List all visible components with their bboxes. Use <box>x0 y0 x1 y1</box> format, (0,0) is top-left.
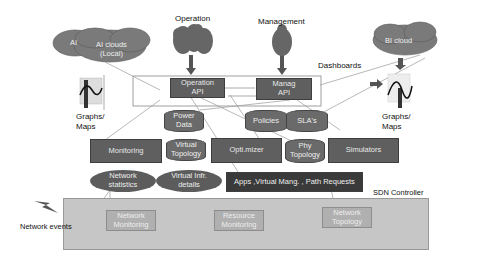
operation-crowd-icon <box>173 24 213 54</box>
power-data-db[interactable]: Power Data <box>164 110 204 132</box>
simulators-module[interactable]: Simulators <box>328 138 399 163</box>
requests-bar[interactable]: Apps ,Virtual Mang. , Path Requests <box>226 172 363 192</box>
graph-icon-right <box>388 74 412 108</box>
resource-monitoring-box[interactable]: Resource Monitoring <box>214 210 264 231</box>
graphs-right-line2: Maps <box>382 122 410 132</box>
phy-topology-line2: Topology <box>290 151 320 160</box>
management-crowd-icon <box>272 24 292 56</box>
dashboards-label: Dashboards <box>318 61 361 70</box>
management-label: Management <box>258 17 305 26</box>
graphs-left-line2: Maps <box>76 122 104 132</box>
ai-local-cloud-label: AI clouds (Local) <box>96 40 127 58</box>
operation-api-box[interactable]: Operation API <box>170 78 225 98</box>
power-line2: Data <box>176 121 192 130</box>
virtual-topology-db[interactable]: Virtual Topology <box>166 139 206 161</box>
graphs-left-line1: Graphs/ <box>76 112 104 122</box>
network-events-label: Network events <box>20 222 72 231</box>
policies-db[interactable]: Policies <box>245 110 287 132</box>
network-topology-line2: Topology <box>332 218 362 227</box>
operation-label: Operation <box>175 14 210 23</box>
virtual-infr-details-ellipse[interactable]: Virtual Infr. details <box>156 170 222 192</box>
slas-db[interactable]: SLA's <box>286 110 328 132</box>
ai-local-line2: (Local) <box>96 49 127 58</box>
graph-icon-left <box>80 78 102 108</box>
network-topology-box[interactable]: Network Topology <box>322 207 372 228</box>
network-monitoring-line2: Monitoring <box>113 221 148 230</box>
phy-topology-db[interactable]: Phy Topology <box>285 139 325 163</box>
operation-api-line2: API <box>191 88 203 97</box>
network-statistics-ellipse[interactable]: Network statistics <box>90 170 156 192</box>
management-api-line2: API <box>278 89 290 98</box>
network-statistics-line2: statistics <box>109 181 138 190</box>
virtual-topology-line2: Topology <box>171 150 201 159</box>
graphs-maps-left: Graphs/ Maps <box>76 112 104 131</box>
optimizer-module[interactable]: Opti.mizer <box>211 138 282 163</box>
management-api-box[interactable]: Manag API <box>256 78 312 100</box>
network-monitoring-box[interactable]: Network Monitoring <box>106 210 156 231</box>
monitoring-module[interactable]: Monitoring <box>90 139 162 163</box>
graphs-maps-right: Graphs/ Maps <box>382 112 410 131</box>
sdn-controller-title: SDN Controller <box>373 188 423 197</box>
virtual-infr-line2: details <box>178 181 200 190</box>
bi-cloud-label: BI cloud <box>385 36 412 45</box>
ai-local-line1: AI clouds <box>96 40 127 49</box>
graphs-right-line1: Graphs/ <box>382 112 410 122</box>
resource-monitoring-line2: Monitoring <box>221 221 256 230</box>
ai-cloud-label: AI <box>70 38 77 47</box>
